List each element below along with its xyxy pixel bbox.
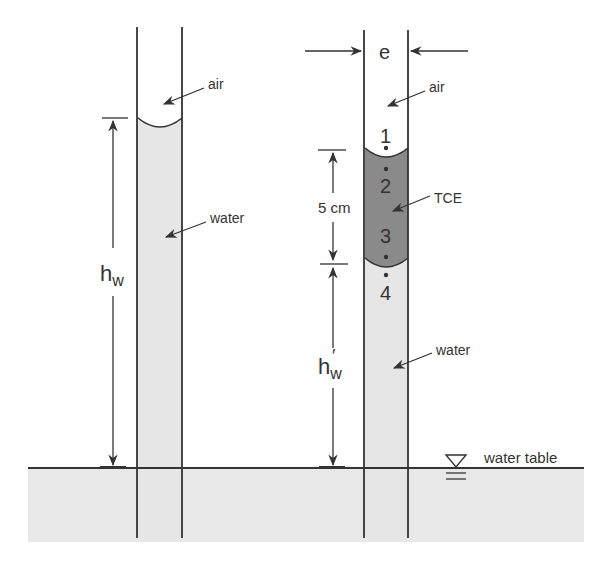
point-1-label: 1	[380, 125, 391, 147]
ground-fill	[28, 468, 584, 542]
hw-label: hw	[100, 261, 124, 289]
hw-bottom-tick	[100, 466, 126, 469]
hw-prime-mark: ′	[332, 346, 336, 366]
point-3-label: 3	[380, 225, 391, 247]
point-4-dot	[384, 273, 388, 277]
right-air-arrow	[388, 91, 425, 106]
hw-prime-bottom-tick	[319, 466, 345, 469]
hw-prime-label: hw	[318, 354, 342, 382]
e-label: e	[379, 41, 390, 63]
left-tube-water	[138, 118, 182, 538]
left-air-label: air	[208, 76, 224, 92]
left-water-label: water	[209, 210, 245, 226]
tce-label: TCE	[434, 190, 462, 206]
capillary-diagram: air water hw e air 1 2 3 4 TCE 5 cm hw ′…	[0, 0, 613, 575]
tce-thickness-label: 5 cm	[318, 199, 351, 216]
left-air-arrow	[164, 88, 204, 104]
right-air-label: air	[429, 79, 445, 95]
point-2-label: 2	[380, 175, 391, 197]
point-3-dot	[384, 255, 388, 259]
water-table-icon	[446, 455, 466, 467]
point-4-label: 4	[380, 282, 391, 304]
point-1-dot	[384, 146, 388, 150]
point-2-dot	[384, 167, 388, 171]
water-table-label: water table	[483, 449, 557, 466]
right-water-label: water	[435, 342, 471, 358]
